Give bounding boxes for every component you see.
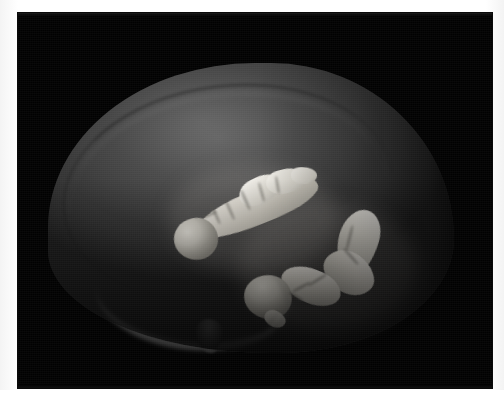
render-panel [18, 13, 492, 388]
panel-bottom-edge-sheen [18, 384, 492, 388]
panel-top-edge-sheen [18, 13, 492, 16]
figure-page [0, 0, 504, 407]
figure-caption-area [0, 390, 504, 407]
page-left-margin [0, 0, 18, 407]
brain-volume-render [48, 63, 454, 353]
